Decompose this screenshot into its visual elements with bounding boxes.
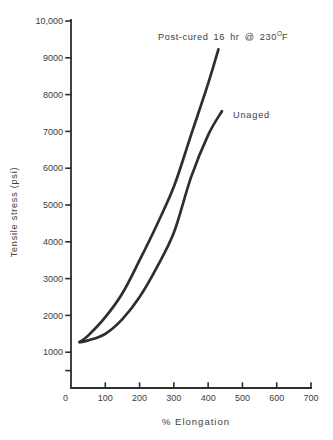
x-tick-label: 500 [235, 393, 250, 403]
x-tick-label: 200 [132, 393, 147, 403]
y-tick-label: 7000 [43, 127, 63, 137]
x-tick-label: 300 [166, 393, 181, 403]
annotation-post-cured-unit: F [282, 32, 288, 42]
y-tick-label: 4000 [43, 237, 63, 247]
annotation-unaged: Unaged [233, 110, 270, 120]
y-tick-label: 5000 [43, 200, 63, 210]
annotation-post-cured: Post-cured 16 hr @ 230OF [158, 30, 288, 42]
x-tick-label: 0 [63, 393, 68, 403]
y-tick-label: 2000 [43, 311, 63, 321]
x-tick-label: 600 [269, 393, 284, 403]
y-tick-label: 1000 [43, 347, 63, 357]
y-tick-label: 10,000 [35, 16, 63, 26]
plot-area: 10002000300040005000600070008000900010,0… [0, 0, 333, 440]
x-tick-label: 100 [98, 393, 113, 403]
y-axis-title: Tensile stress (psi) [9, 167, 19, 258]
y-tick-label: 8000 [43, 90, 63, 100]
y-tick-label: 9000 [43, 53, 63, 63]
y-tick-label: 3000 [43, 274, 63, 284]
curve-unaged [80, 111, 222, 342]
curve-post-cured [80, 49, 219, 342]
annotation-post-cured-text: Post-cured 16 hr @ 230 [158, 32, 277, 42]
x-tick-label: 700 [303, 393, 318, 403]
x-tick-label: 400 [201, 393, 216, 403]
figure: 10002000300040005000600070008000900010,0… [0, 0, 333, 440]
y-tick-label: 6000 [43, 163, 63, 173]
x-axis-title: % Elongation [162, 416, 230, 427]
